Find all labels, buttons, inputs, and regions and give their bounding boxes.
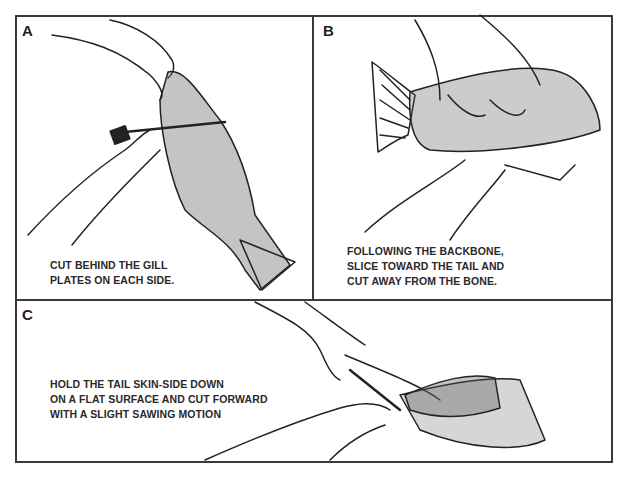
panel-a-illustration bbox=[28, 20, 295, 290]
panel-b-illustration bbox=[365, 15, 600, 240]
caption-line: ON A FLAT SURFACE AND CUT FORWARD bbox=[50, 392, 268, 407]
caption-line: PLATES ON EACH SIDE. bbox=[50, 273, 174, 288]
caption-line: HOLD THE TAIL SKIN-SIDE DOWN bbox=[50, 377, 268, 392]
caption-line: SLICE TOWARD THE TAIL AND bbox=[347, 259, 504, 274]
caption-line: FOLLOWING THE BACKBONE, bbox=[347, 244, 504, 259]
panel-label-b: B bbox=[323, 22, 334, 39]
caption-line: CUT AWAY FROM THE BONE. bbox=[347, 274, 504, 289]
panel-label-a: A bbox=[22, 22, 33, 39]
caption-line: CUT BEHIND THE GILL bbox=[50, 258, 174, 273]
panel-c-caption: HOLD THE TAIL SKIN-SIDE DOWN ON A FLAT S… bbox=[50, 377, 268, 422]
panel-b-caption: FOLLOWING THE BACKBONE, SLICE TOWARD THE… bbox=[347, 244, 504, 289]
caption-line: WITH A SLIGHT SAWING MOTION bbox=[50, 407, 268, 422]
panel-a-caption: CUT BEHIND THE GILL PLATES ON EACH SIDE. bbox=[50, 258, 174, 288]
panel-label-c: C bbox=[22, 306, 33, 323]
